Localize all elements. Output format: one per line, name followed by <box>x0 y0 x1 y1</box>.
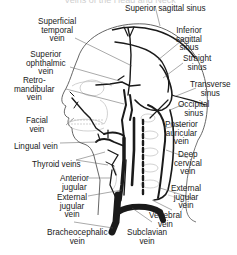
label-thyroid-veins: Thyroid veins <box>32 161 81 170</box>
label-line: sinus <box>178 110 209 119</box>
label-straight-sinus: Straight sinus <box>183 55 211 72</box>
label-line: vein <box>38 35 76 44</box>
label-line: vein <box>127 238 167 247</box>
label-retromandibular-vein: Retro- mandibular vein <box>14 77 55 103</box>
label-brachiocephalic-vein: Bracheocephalic vein <box>47 229 108 246</box>
label-line: vein <box>26 126 48 135</box>
label-line: vein <box>57 211 87 220</box>
veins-diagram: Veins of the Head and Neck <box>0 0 237 255</box>
label-line: vein <box>174 168 202 177</box>
label-occipital-sinus: Occipital sinus <box>178 101 209 118</box>
label-facial-vein: Facial vein <box>26 117 48 134</box>
label-line: vein <box>171 202 201 211</box>
label-anterior-jugular: Anterior jugular <box>60 175 89 192</box>
label-transverse-sinus: Transverse sinus <box>190 81 231 98</box>
label-line: sinus <box>176 44 202 53</box>
label-line: vein <box>14 94 55 103</box>
label-line: vein <box>165 138 198 147</box>
label-line: sinus <box>190 90 231 99</box>
label-line: jugular <box>60 184 89 193</box>
label-subclavian-vein: Subclavian vein <box>127 229 167 246</box>
label-line: vein <box>47 238 108 247</box>
label-inferior-sagittal-sinus: Inferior sagittal sinus <box>176 27 202 53</box>
label-lingual-vein: Lingual vein <box>14 143 58 152</box>
label-line: sinus <box>183 64 211 73</box>
label-external-jugular-vein-right: External jugular vein <box>57 194 87 220</box>
label-superior-ophthalmic-vein: Superior ophthalmic vein <box>26 51 66 77</box>
label-posterior-auricular-vein: Posterior auricular vein <box>165 121 198 147</box>
label-superficial-temporal-vein: Superficial temporal vein <box>38 18 76 44</box>
label-superior-sagittal-sinus: Superior sagittal sinus <box>125 5 206 14</box>
label-external-jugular-vein-left: External jugular vein <box>171 185 201 211</box>
label-vertebral-vein: Vertebral vein <box>149 212 182 229</box>
label-deep-cervical-vein: Deep cervical vein <box>174 151 202 177</box>
